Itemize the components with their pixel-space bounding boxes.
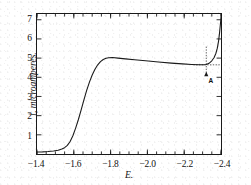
y-tick-label: 4 xyxy=(20,72,32,82)
data-series-line xyxy=(37,18,221,152)
y-tick-label: 1 xyxy=(20,131,32,141)
plot-area xyxy=(36,13,222,155)
plot-canvas xyxy=(37,14,221,154)
x-tick-label: −1.8 xyxy=(102,159,118,169)
y-tick-label: 3 xyxy=(20,92,32,102)
tick-marks xyxy=(37,14,221,154)
x-tick-label: −2.0 xyxy=(139,159,155,169)
x-tick-label: −2.2 xyxy=(177,159,193,169)
annotation-label-a: A xyxy=(209,77,214,84)
y-tick-label: 5 xyxy=(20,53,32,63)
polarogram-figure: i, microamperes. 1234567 −1.4−1.6−1.8−2.… xyxy=(0,0,251,185)
x-tick-label: −1.4 xyxy=(28,159,44,169)
y-tick-label: 6 xyxy=(20,33,32,43)
x-tick-label: −1.6 xyxy=(65,159,81,169)
y-tick-label: 2 xyxy=(20,111,32,121)
x-tick-label: −2.4 xyxy=(214,159,230,169)
x-axis-title: E. xyxy=(125,170,133,180)
y-tick-label: 7 xyxy=(20,14,32,24)
